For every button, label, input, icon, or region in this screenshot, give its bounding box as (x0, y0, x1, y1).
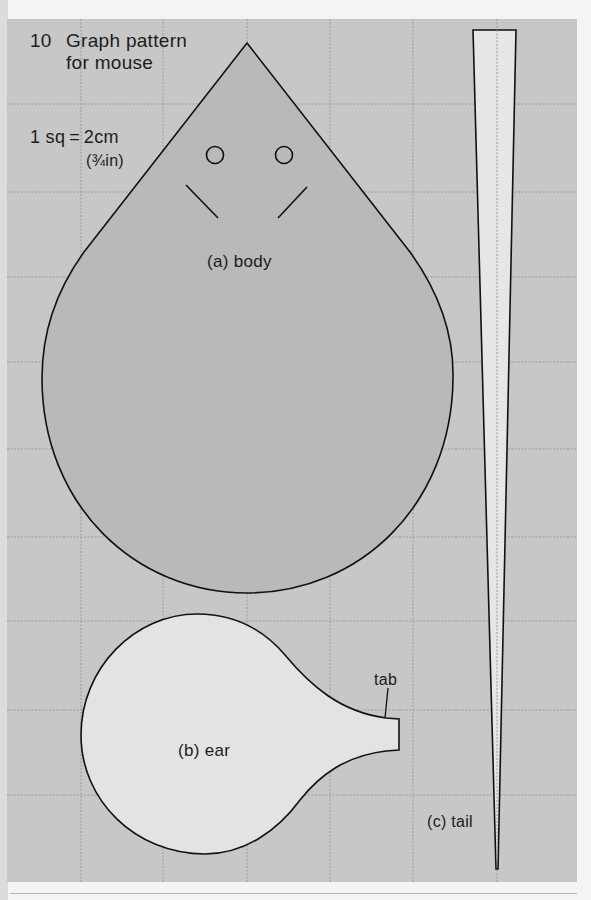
ear-label: (b) ear (178, 740, 230, 761)
figure-title-line2: for mouse (66, 52, 187, 74)
bottom-rule-divider (10, 893, 577, 894)
figure-number: 10 (30, 30, 52, 51)
tail-piece-outline (473, 30, 516, 869)
figure-title-line1: Graph pattern (66, 30, 187, 52)
scale-note: 1 sq = 2cm (30, 127, 119, 148)
ear-piece-outline (81, 614, 399, 854)
scale-note-imperial: (¾in) (86, 150, 124, 171)
body-piece-outline (42, 43, 453, 593)
tab-label: tab (374, 669, 397, 690)
tab-leader-line (385, 688, 388, 718)
tail-label: (c) tail (427, 811, 473, 832)
figure-title: Graph pattern for mouse (66, 30, 187, 74)
body-label: (a) body (207, 251, 272, 272)
